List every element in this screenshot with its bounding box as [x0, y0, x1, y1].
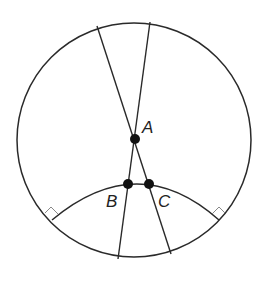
label-c: C: [158, 193, 170, 210]
point-c: [144, 179, 154, 189]
point-b: [123, 179, 133, 189]
label-b: B: [106, 193, 117, 210]
right-angle-marker-right: [212, 207, 225, 214]
label-a: A: [142, 119, 153, 136]
diagram-canvas: A B C: [0, 0, 266, 282]
orthogonal-arc-bc: [52, 184, 219, 220]
point-a: [130, 134, 140, 144]
geometry-figure: [0, 0, 266, 282]
right-angle-marker-left: [45, 207, 58, 214]
